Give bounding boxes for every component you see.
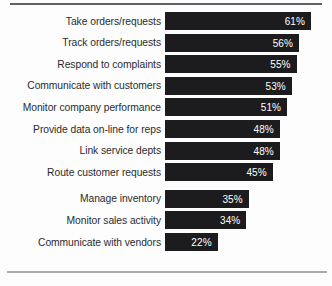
bar-row: Track orders/requests56% xyxy=(0,34,332,52)
bar-value-label: 56% xyxy=(273,37,293,48)
bar-track: 61% xyxy=(165,12,332,30)
bar-value-label: 61% xyxy=(285,16,305,27)
bar-track: 56% xyxy=(165,34,332,52)
bar-value-label: 34% xyxy=(220,215,240,226)
bar: 51% xyxy=(165,98,287,116)
bar-track: 55% xyxy=(165,55,332,73)
bar: 55% xyxy=(165,55,297,73)
category-label: Respond to complaints xyxy=(0,59,165,70)
bottom-divider-rule xyxy=(7,271,327,273)
bar-row: Monitor company performance51% xyxy=(0,98,332,116)
bar-row: Monitor sales activity34% xyxy=(0,211,332,229)
bar-row: Communicate with vendors22% xyxy=(0,233,332,251)
bar: 45% xyxy=(165,163,273,181)
bar-track: 45% xyxy=(165,163,332,181)
bar: 35% xyxy=(165,190,249,208)
bar-track: 35% xyxy=(165,190,332,208)
bar: 22% xyxy=(165,233,218,251)
bar-track: 22% xyxy=(165,233,332,251)
category-label: Monitor sales activity xyxy=(0,215,165,226)
bar-row: Take orders/requests61% xyxy=(0,12,332,30)
bar-track: 51% xyxy=(165,98,332,116)
bar-row: Communicate with customers53% xyxy=(0,77,332,95)
plot-area: Take orders/requests61%Track orders/requ… xyxy=(0,12,332,264)
bar: 61% xyxy=(165,12,311,30)
bar-value-label: 55% xyxy=(270,59,290,70)
bar-value-label: 35% xyxy=(222,193,242,204)
category-label: Communicate with customers xyxy=(0,80,165,91)
bar: 56% xyxy=(165,34,299,52)
category-label: Manage inventory xyxy=(0,193,165,204)
bar-row: Respond to complaints55% xyxy=(0,55,332,73)
bar-value-label: 48% xyxy=(254,124,274,135)
bar-row: Route customer requests45% xyxy=(0,163,332,181)
bar-row: Manage inventory35% xyxy=(0,190,332,208)
category-label: Link service depts xyxy=(0,145,165,156)
category-label: Monitor company performance xyxy=(0,102,165,113)
bar: 48% xyxy=(165,142,280,160)
bar-value-label: 45% xyxy=(246,167,266,178)
bar-value-label: 51% xyxy=(261,102,281,113)
category-label: Route customer requests xyxy=(0,167,165,178)
bar-row: Link service depts48% xyxy=(0,142,332,160)
bar: 34% xyxy=(165,211,246,229)
bar-track: 34% xyxy=(165,211,332,229)
category-label: Take orders/requests xyxy=(0,16,165,27)
bar: 48% xyxy=(165,120,280,138)
top-divider-rule xyxy=(10,3,322,5)
bar: 53% xyxy=(165,77,292,95)
bar-value-label: 53% xyxy=(266,80,286,91)
bar-value-label: 22% xyxy=(191,237,211,248)
category-label: Communicate with vendors xyxy=(0,237,165,248)
bar-track: 48% xyxy=(165,142,332,160)
bar-track: 53% xyxy=(165,77,332,95)
bar-value-label: 48% xyxy=(254,145,274,156)
bar-row: Provide data on-line for reps48% xyxy=(0,120,332,138)
bar-track: 48% xyxy=(165,120,332,138)
bar-chart-figure: Take orders/requests61%Track orders/requ… xyxy=(0,0,332,286)
category-label: Provide data on-line for reps xyxy=(0,124,165,135)
category-label: Track orders/requests xyxy=(0,37,165,48)
